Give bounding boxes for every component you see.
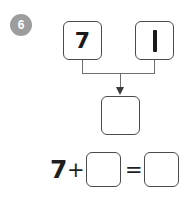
addend-b-box[interactable]: 1 [135, 21, 174, 60]
plus-sign-icon: + [67, 160, 85, 181]
equation-first-term: 7 [50, 157, 67, 182]
equals-sign-icon: = [125, 160, 143, 181]
connector-horizontal-bar [82, 73, 155, 74]
addend-a-value: 7 [64, 22, 101, 59]
down-arrow-icon [116, 87, 124, 95]
addend-a-box[interactable]: 7 [63, 21, 102, 60]
connector-stub-right [154, 60, 155, 74]
problem-number-badge: 6 [10, 14, 32, 36]
sum-answer-box[interactable] [101, 96, 140, 135]
sum-value [102, 97, 139, 134]
connector-stub-left [82, 60, 83, 74]
equation-result-value [145, 153, 178, 186]
equation-second-term-value [87, 153, 120, 186]
worksheet-problem: 6 7 1 7 + = [0, 0, 196, 205]
equation-second-term-box[interactable] [86, 152, 121, 187]
equation-result-box[interactable] [144, 152, 179, 187]
addend-b-value: 1 [136, 22, 173, 59]
